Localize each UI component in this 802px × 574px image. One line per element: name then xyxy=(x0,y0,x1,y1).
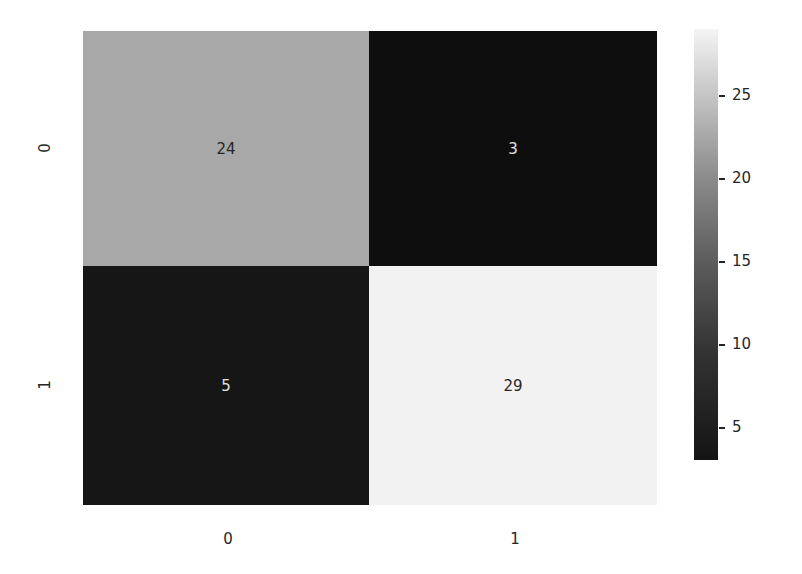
colorbar-label-10: 10 xyxy=(732,335,751,353)
colorbar-tick xyxy=(719,344,725,346)
cell-1-0: 5 xyxy=(83,266,369,505)
colorbar-tick xyxy=(719,178,725,180)
cell-value: 29 xyxy=(503,377,522,395)
colorbar-label-25: 25 xyxy=(732,86,751,104)
cell-0-1: 3 xyxy=(369,31,657,266)
colorbar-tick xyxy=(719,95,725,97)
cell-0-0: 24 xyxy=(83,31,369,266)
cell-value: 24 xyxy=(216,140,235,158)
colorbar-tick xyxy=(719,261,725,263)
y-tick-label-1: 1 xyxy=(36,375,54,395)
cell-value: 3 xyxy=(508,140,518,158)
x-tick-label-1: 1 xyxy=(500,530,530,548)
colorbar-tick xyxy=(719,427,725,429)
cell-value: 5 xyxy=(221,377,231,395)
colorbar-label-15: 15 xyxy=(732,252,751,270)
colorbar-label-20: 20 xyxy=(732,169,751,187)
y-tick-label-0: 0 xyxy=(36,138,54,158)
colorbar-label-5: 5 xyxy=(732,418,742,436)
x-tick-label-0: 0 xyxy=(213,530,243,548)
cell-1-1: 29 xyxy=(369,266,657,505)
colorbar xyxy=(694,29,718,460)
